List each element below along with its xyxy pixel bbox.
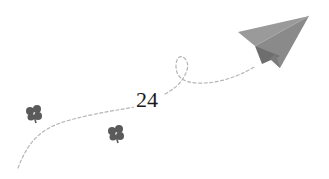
decoration-layer (0, 0, 329, 179)
dashed-flight-path (18, 57, 256, 168)
clover-icon (26, 105, 42, 123)
paper-airplane-icon (238, 16, 309, 68)
page-canvas: 24 (0, 0, 329, 179)
clover-icon (108, 125, 124, 143)
page-number: 24 (134, 88, 160, 112)
